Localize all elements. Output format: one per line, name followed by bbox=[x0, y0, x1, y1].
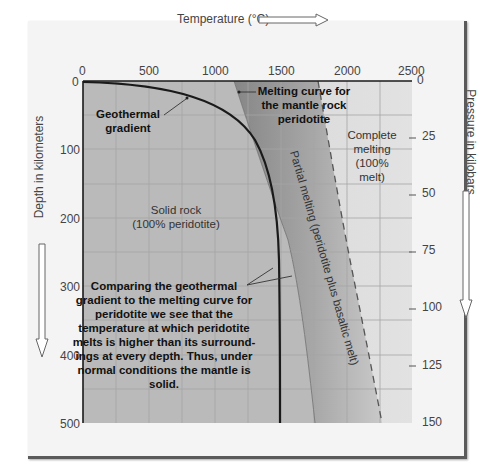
complete-melting-label-4: melt) bbox=[359, 171, 385, 183]
svg-text:Comparing the geothermal: Comparing the geothermal bbox=[91, 280, 237, 292]
svg-text:ings at every depth. Thus, und: ings at every depth. Thus, under bbox=[75, 350, 253, 362]
solid-rock-label-1: Solid rock bbox=[151, 204, 202, 216]
svg-text:temperature at which peridotit: temperature at which peridotite bbox=[78, 322, 249, 334]
solid-rock-label-2: (100% peridotite) bbox=[132, 218, 220, 230]
complete-melting-label-3: (100% bbox=[355, 157, 388, 169]
complete-melting-label-2: melting bbox=[353, 143, 390, 155]
svg-text:solid.: solid. bbox=[149, 378, 179, 390]
melting-curve-label-2: the mantle rock bbox=[262, 99, 348, 111]
geothermal-label-1: Geothermal bbox=[96, 108, 160, 120]
svg-text:melts is higher than its surro: melts is higher than its surround- bbox=[73, 336, 256, 348]
geothermal-label-2: gradient bbox=[105, 122, 151, 134]
complete-melting-label-1: Complete bbox=[347, 129, 396, 141]
plot-area: Geothermal gradient Melting curve for th… bbox=[0, 0, 494, 473]
melting-curve-label-1: Melting curve for bbox=[258, 85, 351, 97]
svg-text:gradient to the melting curve: gradient to the melting curve for bbox=[76, 294, 253, 306]
melting-curve-label-3: peridotite bbox=[278, 113, 330, 125]
svg-text:peridotite we see that the: peridotite we see that the bbox=[95, 308, 233, 320]
svg-text:normal conditions the mantle i: normal conditions the mantle is bbox=[77, 364, 250, 376]
